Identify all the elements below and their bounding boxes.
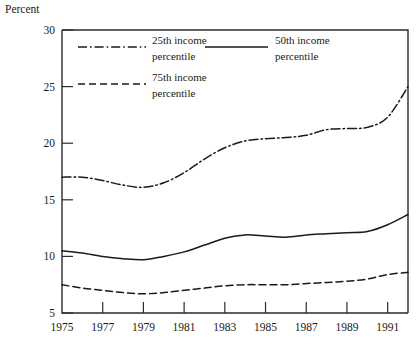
chart-legend: 25th incomepercentile50th incomepercenti… — [78, 34, 330, 99]
x-tick-label: 1975 — [51, 321, 74, 333]
series-line-50th — [62, 215, 408, 260]
y-axis-title: Percent — [5, 3, 40, 15]
x-tick-label: 1983 — [213, 321, 236, 333]
legend-label-line2: percentile — [275, 50, 318, 62]
x-tick-label: 1989 — [335, 321, 358, 333]
y-tick-label: 15 — [44, 194, 56, 206]
series-line-25th — [62, 87, 408, 188]
legend-label-line1: 25th income — [152, 34, 207, 46]
legend-label-line1: 50th income — [275, 34, 330, 46]
data-series — [62, 87, 408, 294]
y-tick-label: 20 — [44, 137, 56, 149]
y-tick-label: 5 — [49, 307, 55, 319]
x-tick-label: 1991 — [376, 321, 399, 333]
x-tick-label: 1987 — [295, 321, 318, 333]
x-tick-label: 1979 — [132, 321, 155, 333]
y-tick-label: 30 — [44, 24, 56, 36]
legend-label-line2: percentile — [152, 50, 195, 62]
x-tick-label: 1977 — [91, 321, 114, 333]
y-axis-ticks: 51015202530 — [44, 24, 74, 319]
chart-container: Percent 51015202530 19751977197919811983… — [0, 0, 417, 343]
line-chart: Percent 51015202530 19751977197919811983… — [0, 0, 417, 343]
y-tick-label: 10 — [44, 250, 56, 262]
series-line-75th — [62, 272, 408, 294]
axis-frame — [62, 30, 408, 313]
plot-border — [62, 30, 408, 313]
legend-label-line1: 75th income — [152, 71, 207, 83]
x-tick-label: 1985 — [254, 321, 277, 333]
legend-label-line2: percentile — [152, 87, 195, 99]
y-tick-label: 25 — [44, 81, 56, 93]
x-axis-ticks: 197519771979198119831985198719891991 — [51, 302, 400, 333]
x-tick-label: 1981 — [173, 321, 196, 333]
